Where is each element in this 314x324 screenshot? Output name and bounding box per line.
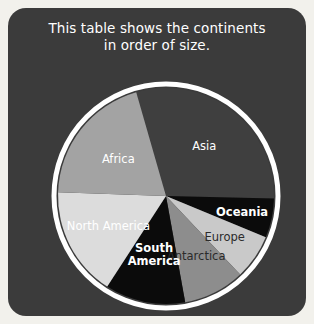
page-title-line-2: in order of size. [22, 37, 292, 54]
pie-chart: AsiaOceaniaEuropeAntarcticaSouthAmericaN… [51, 81, 281, 311]
screenshot-root: This table shows the continents in order… [0, 0, 314, 324]
chart-card: This table shows the continents in order… [8, 8, 306, 316]
page-title-line-1: This table shows the continents [22, 20, 292, 37]
page-title: This table shows the continents in order… [22, 20, 292, 54]
pie-slices-group [58, 88, 274, 304]
pie-chart-svg [51, 81, 281, 311]
